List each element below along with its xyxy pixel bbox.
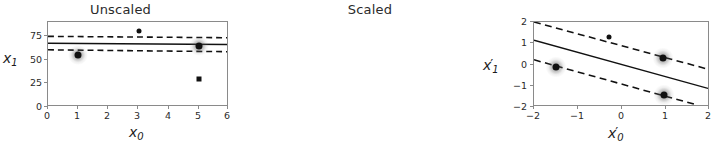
plot-area-scaled (533, 21, 709, 106)
panel-unscaled: Unscaled 0 1 (0, 0, 245, 152)
ytick-label: 1 (511, 37, 527, 48)
xtick-label: 5 (195, 110, 201, 121)
ytick-label: 0 (511, 58, 527, 69)
xaxis-title-scaled: x′0 (608, 124, 624, 143)
xtick-label: 1 (662, 110, 668, 121)
upper-margin-line (48, 36, 227, 37)
xtick-mark (77, 106, 78, 109)
panel-scaled: Scaled −2 −1 0 (245, 0, 491, 152)
ytick-label: 50 (26, 53, 42, 64)
ytick-mark (530, 42, 533, 43)
data-point-circle (659, 54, 666, 61)
xtick-label: 2 (705, 110, 711, 121)
data-point-circle (660, 92, 667, 99)
upper-margin-line (534, 22, 708, 69)
xtick-mark (227, 106, 228, 109)
ytick-mark (44, 35, 47, 36)
xaxis-title-unscaled: x0 (129, 124, 144, 142)
data-point-circle (606, 34, 611, 39)
decision-boundary-line (534, 40, 708, 88)
xtick-label: 2 (104, 110, 110, 121)
decision-lines-scaled (534, 22, 708, 105)
data-point-circle (136, 29, 141, 34)
ytick-label: 0 (26, 101, 42, 112)
data-point-circle (195, 43, 202, 50)
xtick-label: 3 (134, 110, 140, 121)
panel-title-unscaled: Unscaled (0, 2, 243, 17)
xtick-mark (47, 106, 48, 109)
xtick-mark (137, 106, 138, 109)
ytick-label: 2 (511, 16, 527, 27)
ytick-label: 25 (26, 77, 42, 88)
panel-title-scaled: Scaled (247, 2, 493, 17)
plot-area-unscaled (47, 21, 228, 106)
ytick-mark (44, 82, 47, 83)
ytick-mark (530, 85, 533, 86)
xtick-label: 6 (224, 110, 230, 121)
data-point-square (196, 76, 201, 81)
xtick-mark (708, 106, 709, 109)
data-point-circle (553, 63, 560, 70)
xaxis-title-subscript: 0 (617, 132, 623, 143)
xtick-mark (533, 106, 534, 109)
yaxis-title-unscaled: x1 (3, 50, 18, 68)
xtick-label: −1 (570, 110, 584, 121)
ytick-mark (530, 21, 533, 22)
yaxis-title-subscript: 1 (11, 57, 17, 68)
ytick-label: 75 (26, 30, 42, 41)
xtick-label: −2 (526, 110, 540, 121)
data-point-circle (75, 52, 82, 59)
ytick-label: −1 (511, 79, 527, 90)
ytick-label: −2 (511, 101, 527, 112)
xtick-mark (621, 106, 622, 109)
ytick-mark (530, 106, 533, 107)
xtick-mark (168, 106, 169, 109)
ytick-mark (44, 106, 47, 107)
ytick-mark (530, 64, 533, 65)
xtick-mark (577, 106, 578, 109)
xtick-mark (198, 106, 199, 109)
xtick-label: 1 (74, 110, 80, 121)
xtick-mark (665, 106, 666, 109)
xtick-label: 4 (165, 110, 171, 121)
yaxis-title-subscript: 1 (492, 64, 498, 75)
xtick-label: 0 (618, 110, 624, 121)
xtick-mark (107, 106, 108, 109)
yaxis-title-scaled: x′1 (483, 56, 499, 75)
xtick-label: 0 (44, 110, 50, 121)
ytick-mark (44, 59, 47, 60)
decision-lines-unscaled (48, 22, 227, 105)
xaxis-title-subscript: 0 (137, 131, 143, 142)
